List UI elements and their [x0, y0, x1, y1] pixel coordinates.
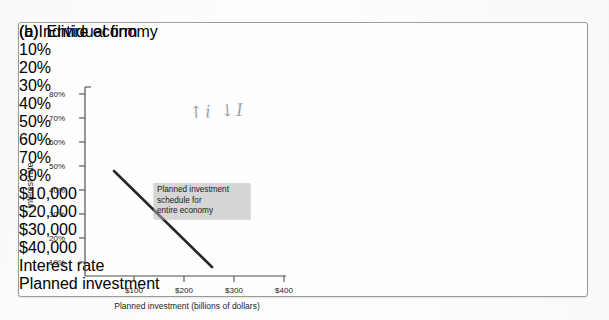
panel-entire-economy: (b)Entire economy 10% 20% 30% 40% 50% 60… — [19, 23, 158, 298]
panel-b-y-ticks — [79, 94, 85, 262]
figure-frame: (a)Individual firm 10% 20% 30% 40% 50% 6… — [18, 22, 588, 297]
handwritten-note-panel-b: ↑i ↓I — [189, 100, 246, 123]
panel-b-x-axis-label: Planned investment (billions of dollars) — [114, 301, 260, 311]
panel-b-plot — [19, 23, 301, 298]
panel-b-x-ticks — [134, 276, 284, 282]
panel-b-callout-label: Planned investment schedule for entire e… — [154, 183, 250, 219]
